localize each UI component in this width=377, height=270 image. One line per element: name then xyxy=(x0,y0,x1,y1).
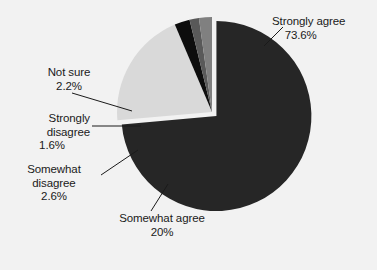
slice-label-somewhat-disagree: Somewhat disagree 2.6% xyxy=(6,163,102,204)
slice-label-strongly-agree: Strongly agree 73.6% xyxy=(272,15,345,42)
pie-chart: Strongly agree 73.6% Not sure 2.2% Stron… xyxy=(0,0,377,270)
slice-label-not-sure: Not sure 2.2% xyxy=(32,66,106,93)
slice-label-strongly-agree-value: 73.6% xyxy=(272,29,345,43)
slice-label-strongly-agree-name: Strongly agree xyxy=(272,15,345,29)
slice-label-somewhat-agree-name: Somewhat agree xyxy=(100,212,224,226)
slice-label-not-sure-value: 2.2% xyxy=(32,80,106,94)
slice-label-somewhat-agree: Somewhat agree 20% xyxy=(100,212,224,239)
slice-label-somewhat-disagree-name-2: disagree xyxy=(6,177,102,191)
slice-label-somewhat-agree-value: 20% xyxy=(100,226,224,240)
leader-line-somewhat-disagree xyxy=(101,150,138,175)
slice-label-somewhat-disagree-name-1: Somewhat xyxy=(6,163,102,177)
slice-label-not-sure-name: Not sure xyxy=(32,66,106,80)
slice-label-somewhat-disagree-value: 2.6% xyxy=(6,190,102,204)
slice-label-strongly-disagree: Strongly disagree 1.6% xyxy=(14,112,90,153)
slice-label-strongly-disagree-name-1: Strongly xyxy=(14,112,90,126)
slice-label-strongly-disagree-value: 1.6% xyxy=(14,139,90,153)
slice-label-strongly-disagree-name-2: disagree xyxy=(14,126,90,140)
